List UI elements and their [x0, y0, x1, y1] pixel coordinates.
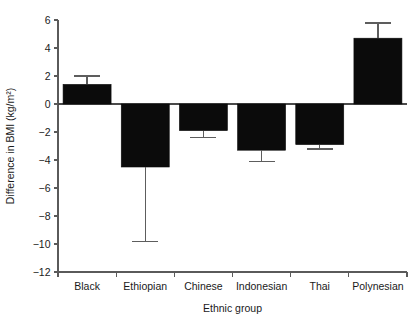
y-axis-tick-label: 2	[45, 70, 51, 82]
y-axis-tick-label: −2	[39, 126, 51, 138]
bar-black	[63, 84, 111, 104]
x-axis-title: Ethnic group	[203, 302, 262, 314]
y-axis-title: Difference in BMI (kg/m²)	[4, 88, 16, 205]
y-axis-tick-label: −8	[39, 210, 51, 222]
bmi-difference-bar-chart: 6420−2−4−6−8−10−12 BlackEthiopianChinese…	[0, 0, 415, 328]
bar-thai	[296, 104, 344, 145]
y-axis: 6420−2−4−6−8−10−12	[33, 14, 58, 278]
y-axis-tick-label: −6	[39, 182, 51, 194]
y-axis-tick-label: 0	[45, 98, 51, 110]
y-axis-tick-label: −12	[33, 266, 51, 278]
bar-chinese	[179, 104, 227, 131]
y-axis-title-group: Difference in BMI (kg/m²)	[4, 88, 16, 205]
y-axis-tick-label: 6	[45, 14, 51, 26]
y-axis-tick-label: −4	[39, 154, 51, 166]
bar-ethiopian	[121, 104, 169, 167]
x-axis-tick-label-indonesian: Indonesian	[236, 280, 288, 292]
bar-indonesian	[238, 104, 286, 150]
x-axis-tick-label-thai: Thai	[310, 280, 330, 292]
x-axis-tick-label-polynesian: Polynesian	[352, 280, 404, 292]
bar-polynesian	[354, 38, 402, 104]
chart-canvas: 6420−2−4−6−8−10−12 BlackEthiopianChinese…	[0, 0, 415, 328]
x-axis	[58, 104, 407, 277]
y-axis-tick-label: 4	[45, 42, 51, 54]
y-axis-tick-label: −10	[33, 238, 51, 250]
x-axis-tick-label-black: Black	[74, 280, 100, 292]
x-axis-tick-label-chinese: Chinese	[184, 280, 223, 292]
bars-layer	[63, 38, 402, 167]
x-axis-tick-label-ethiopian: Ethiopian	[123, 280, 167, 292]
